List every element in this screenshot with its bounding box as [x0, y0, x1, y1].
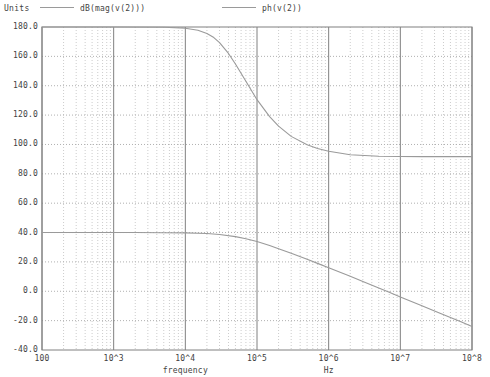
y-axis-tick-label: 40.0: [0, 228, 38, 237]
y-axis-tick-label: -40.0: [0, 345, 38, 354]
plot-canvas: [0, 0, 490, 377]
y-axis-tick-label: 60.0: [0, 198, 38, 207]
y-axis-tick-label: 100.0: [0, 139, 38, 148]
bode-plot-figure: Units dB(mag(v(2))) ph(v(2)) -40.0-20.00…: [0, 0, 490, 377]
x-axis-tick-label: 10^4: [175, 354, 195, 363]
x-axis-label-frequency: frequency: [163, 366, 208, 375]
y-axis-tick-label: 120.0: [0, 110, 38, 119]
y-axis-tick-label: 180.0: [0, 22, 38, 31]
x-axis-tick-label: 10^6: [319, 354, 339, 363]
x-axis-tick-label: 10^8: [462, 354, 482, 363]
y-axis-tick-label: -20.0: [0, 316, 38, 325]
y-axis-tick-label: 0.0: [0, 286, 38, 295]
y-axis-tick-label: 80.0: [0, 169, 38, 178]
x-axis-tick-label: 10^5: [247, 354, 267, 363]
y-axis-tick-label: 140.0: [0, 81, 38, 90]
x-axis-tick-label: 100: [34, 354, 49, 363]
x-axis-tick-label: 10^7: [390, 354, 410, 363]
y-axis-tick-label: 20.0: [0, 257, 38, 266]
x-axis-label-hz: Hz: [324, 366, 334, 375]
y-axis-tick-label: 160.0: [0, 51, 38, 60]
x-axis-tick-label: 10^3: [104, 354, 124, 363]
